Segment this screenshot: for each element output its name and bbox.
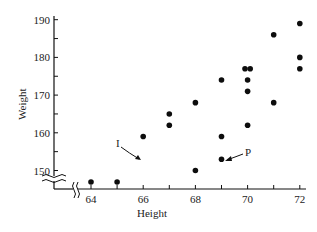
data-point: [88, 179, 94, 185]
annotation-i-arrow: [121, 147, 139, 159]
data-point: [245, 77, 251, 83]
x-axis-break-icon: [77, 182, 80, 198]
data-points: [88, 21, 302, 185]
data-point: [247, 66, 253, 72]
data-point: [167, 111, 173, 117]
data-point: [297, 21, 303, 27]
axis-ticks: 1501601701801906466687072: [34, 14, 306, 205]
axes: [42, 16, 306, 198]
annotation-i-label: I: [116, 137, 120, 149]
y-tick-label: 170: [34, 89, 51, 101]
data-point: [193, 100, 199, 106]
data-point: [219, 156, 225, 162]
data-point: [193, 168, 199, 174]
data-point: [245, 89, 251, 95]
data-point: [297, 55, 303, 61]
data-point: [271, 32, 277, 38]
y-tick-label: 190: [34, 14, 51, 26]
annotation-p-arrowhead-icon: [225, 156, 232, 161]
data-point: [140, 134, 146, 140]
data-point: [114, 179, 120, 185]
x-tick-label: 68: [190, 193, 202, 205]
x-tick-label: 64: [86, 193, 98, 205]
y-axis-title: Weight: [16, 89, 28, 121]
data-point: [245, 122, 251, 128]
data-point: [242, 66, 248, 72]
x-tick-label: 66: [138, 193, 150, 205]
x-axis-title: Height: [137, 207, 167, 219]
data-point: [297, 66, 303, 72]
data-point: [219, 77, 225, 83]
x-tick-label: 72: [294, 193, 305, 205]
data-point: [271, 100, 277, 106]
scatter-plot: 1501601701801906466687072 I P Height Wei…: [0, 0, 317, 232]
x-axis-break-icon: [73, 182, 76, 198]
data-point: [219, 134, 225, 140]
y-tick-label: 150: [34, 165, 51, 177]
annotation-p-label: P: [245, 146, 251, 158]
data-point: [167, 122, 173, 128]
x-tick-label: 70: [242, 193, 254, 205]
annotations: I P: [116, 137, 251, 161]
y-tick-label: 160: [34, 127, 51, 139]
y-tick-label: 180: [34, 51, 51, 63]
